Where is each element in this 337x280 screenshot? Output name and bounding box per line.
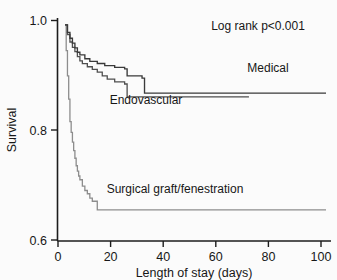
y-tick-labels: 1.0 0.8 0.6 [30,14,47,248]
x-tick-label-40: 40 [156,250,170,264]
series-label-surgical: Surgical graft/fenestration [107,182,244,196]
x-tick-label-0: 0 [55,250,62,264]
survival-chart-figure: 1.0 0.8 0.6 0 20 40 60 80 100 [0,0,337,280]
x-tick-label-100: 100 [311,250,332,264]
x-axis-title: Length of stay (days) [136,266,253,280]
series-label-endovascular: Endovascular [110,93,183,107]
x-tick-label-60: 60 [209,250,223,264]
chart-svg: 1.0 0.8 0.6 0 20 40 60 80 100 [0,0,337,280]
y-tick-label-3: 0.6 [30,234,47,248]
x-tick-label-80: 80 [261,250,275,264]
y-tick-marks [51,21,58,241]
log-rank-annotation: Log rank p<0.001 [211,19,305,33]
x-tick-label-20: 20 [104,250,118,264]
curve-medical [65,25,326,93]
y-tick-label-1: 1.0 [30,14,47,28]
series-label-medical: Medical [247,61,288,75]
x-tick-labels: 0 20 40 60 80 100 [55,250,332,264]
y-tick-label-2: 0.8 [30,124,47,138]
x-tick-marks [58,241,321,247]
y-axis-title: Survival [5,108,19,152]
plot-area: 1.0 0.8 0.6 0 20 40 60 80 100 [5,14,331,280]
